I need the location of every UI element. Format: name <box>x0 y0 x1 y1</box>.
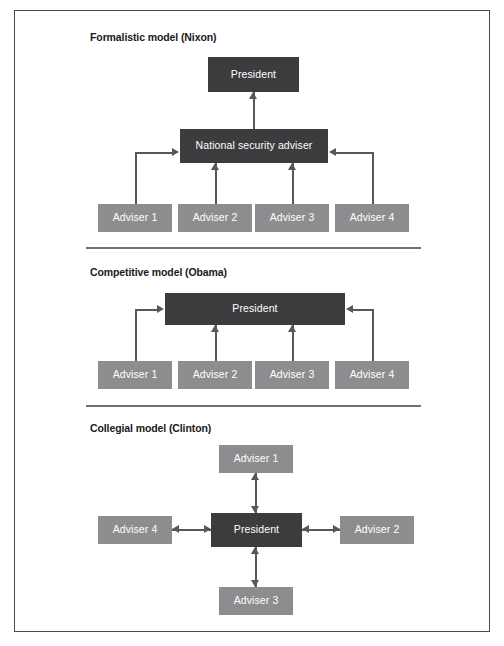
connector-adviser4-horizontal-competitive <box>352 309 373 311</box>
arrow-adviser2-to-president <box>211 325 219 332</box>
divider-competitive-collegial <box>86 405 421 407</box>
diagram-frame: Formalistic model (Nixon) President Nati… <box>14 10 490 632</box>
arrow-adviser2-to-nsa <box>211 163 219 170</box>
node-adviser-3-collegial: Adviser 3 <box>219 587 293 615</box>
arrow-adviser2-to-president-collegial <box>302 525 309 533</box>
panel-title-formalistic: Formalistic model (Nixon) <box>90 31 216 43</box>
arrow-president-to-adviser2 <box>333 525 340 533</box>
node-president-collegial: President <box>211 513 302 547</box>
connector-adviser4-horizontal <box>335 152 373 154</box>
arrow-adviser1-to-nsa <box>172 148 179 156</box>
panel-competitive-model: Competitive model (Obama) President Advi… <box>15 251 489 401</box>
panel-collegial-model: Collegial model (Clinton) Adviser 1 Pres… <box>15 409 489 633</box>
divider-formalistic-competitive <box>86 247 421 249</box>
connector-adviser1-vertical-competitive <box>135 309 137 361</box>
node-adviser-3-competitive: Adviser 3 <box>255 361 329 389</box>
arrow-adviser4-to-nsa <box>329 148 336 156</box>
connector-adviser4-vertical <box>372 152 374 204</box>
connector-adviser1-horizontal-competitive <box>135 309 158 311</box>
arrow-adviser3-to-nsa <box>288 163 296 170</box>
arrow-adviser3-to-president <box>288 325 296 332</box>
panel-title-collegial: Collegial model (Clinton) <box>90 422 211 434</box>
arrow-president-to-adviser1 <box>251 473 259 480</box>
node-adviser-1-formalistic: Adviser 1 <box>98 204 172 232</box>
node-adviser-3-formalistic: Adviser 3 <box>255 204 329 232</box>
node-adviser-1-competitive: Adviser 1 <box>98 361 172 389</box>
node-adviser-4-collegial: Adviser 4 <box>98 516 172 544</box>
arrow-adviser4-to-president <box>346 305 353 313</box>
panel-formalistic-model: Formalistic model (Nixon) President Nati… <box>15 11 489 243</box>
arrow-nsa-to-president <box>249 92 257 99</box>
connector-adviser4-vertical-competitive <box>372 309 374 361</box>
node-national-security-adviser: National security adviser <box>180 129 328 163</box>
node-adviser-2-collegial: Adviser 2 <box>340 516 414 544</box>
node-adviser-1-collegial: Adviser 1 <box>219 445 293 473</box>
arrow-adviser3-to-president-collegial <box>251 547 259 554</box>
connector-adviser1-horizontal <box>135 152 173 154</box>
arrow-president-to-adviser3 <box>251 580 259 587</box>
node-president-formalistic: President <box>208 57 299 92</box>
arrow-president-to-adviser4 <box>172 525 179 533</box>
connector-adviser1-vertical <box>135 152 137 204</box>
node-adviser-2-formalistic: Adviser 2 <box>178 204 252 232</box>
node-adviser-2-competitive: Adviser 2 <box>178 361 252 389</box>
arrow-adviser4-to-president-collegial <box>204 525 211 533</box>
node-adviser-4-formalistic: Adviser 4 <box>335 204 409 232</box>
node-president-competitive: President <box>165 293 345 325</box>
node-adviser-4-competitive: Adviser 4 <box>335 361 409 389</box>
panel-title-competitive: Competitive model (Obama) <box>90 266 227 278</box>
arrow-adviser1-to-president <box>157 305 164 313</box>
arrow-adviser1-to-president-collegial <box>251 506 259 513</box>
